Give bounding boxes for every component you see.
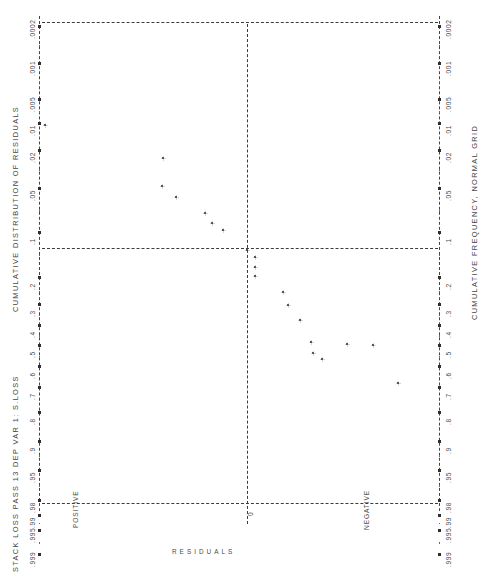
axis-tick-label: .999 (445, 552, 452, 567)
axis-tick-label: .99 (445, 517, 452, 528)
right-axis-spine (439, 16, 440, 511)
axis-tick-label: .99 (29, 517, 36, 528)
axis-tick-label: .95 (445, 472, 452, 483)
axis-tick (38, 303, 41, 306)
axis-tick (38, 386, 41, 389)
axis-tick-label: .98 (445, 502, 452, 513)
axis-tick-minor (439, 45, 441, 47)
lower-frame-line (42, 503, 438, 504)
axis-tick-minor (439, 377, 441, 379)
axis-tick-label: .95 (29, 472, 36, 483)
axis-tick (38, 344, 41, 347)
axis-tick (38, 25, 41, 28)
data-point (312, 352, 315, 355)
axis-tick (38, 149, 41, 152)
axis-tick-minor (39, 81, 41, 83)
median-reference-line (42, 248, 438, 249)
axis-tick-minor (439, 111, 441, 113)
right-axis-title: CUMULATIVE FREQUENCY, NORMAL GRID (470, 125, 479, 320)
axis-tick (38, 411, 41, 414)
axis-tick-minor (39, 456, 41, 458)
axis-tick-minor (39, 169, 41, 171)
axis-tick-minor (439, 169, 441, 171)
axis-tick-minor (39, 508, 41, 510)
axis-tick (438, 276, 441, 279)
axis-tick-minor (39, 315, 41, 317)
data-point (222, 229, 225, 232)
region-label-zero: 0 (247, 511, 254, 516)
data-point (175, 196, 178, 199)
axis-tick-label: .9 (445, 447, 452, 454)
axis-tick-label: .05 (445, 190, 452, 201)
axis-tick-label: .3 (445, 310, 452, 317)
axis-tick-label: .01 (445, 125, 452, 136)
axis-tick-label: .8 (445, 418, 452, 425)
data-point (346, 343, 349, 346)
axis-tick-minor (39, 45, 41, 47)
axis-tick-minor (439, 81, 441, 83)
data-point (310, 341, 313, 344)
axis-tick-minor (39, 291, 41, 293)
axis-tick (38, 440, 41, 443)
axis-tick-minor (39, 356, 41, 358)
axis-tick (438, 231, 441, 234)
bottom-axis-title: RESIDUALS (172, 548, 235, 555)
data-point (204, 212, 207, 215)
axis-tick (438, 499, 441, 502)
axis-tick-minor (439, 335, 441, 337)
axis-tick-label: .4 (445, 331, 452, 338)
data-point (321, 358, 324, 361)
axis-tick (38, 122, 41, 125)
axis-tick-label: .5 (445, 351, 452, 358)
axis-tick-label: .005 (445, 97, 452, 112)
region-label-negative: NEGATIVE (363, 490, 370, 530)
axis-tick (438, 514, 441, 517)
axis-tick (38, 98, 41, 101)
data-point (162, 157, 165, 160)
axis-tick-minor (39, 542, 41, 544)
axis-tick-label: .0002 (29, 19, 36, 39)
left-axis-title: CUMULATIVE DISTRIBUTION OF RESIDUALS (11, 106, 20, 312)
axis-tick-minor (39, 335, 41, 337)
axis-tick (438, 440, 441, 443)
axis-tick (38, 469, 41, 472)
axis-tick-label: .02 (445, 152, 452, 163)
axis-tick-minor (39, 377, 41, 379)
axis-tick-label: .05 (29, 190, 36, 201)
axis-tick-label: .8 (29, 418, 36, 425)
axis-tick-minor (439, 523, 441, 525)
data-point (44, 124, 47, 127)
data-point (299, 319, 302, 322)
axis-tick-minor (439, 485, 441, 487)
axis-tick-minor (439, 210, 441, 212)
axis-tick-label: .2 (445, 283, 452, 290)
plot-title-left: STACK LOSS PASS 13 DEP VAR 1: S.LOSS (11, 375, 20, 572)
axis-tick (438, 98, 441, 101)
zero-residual-line (247, 24, 248, 524)
axis-tick (38, 324, 41, 327)
axis-tick-minor (439, 255, 441, 257)
axis-tick-label: .3 (29, 310, 36, 317)
axis-tick (438, 62, 441, 65)
axis-tick-minor (439, 542, 441, 544)
left-axis-spine (39, 16, 40, 511)
data-point (254, 275, 257, 278)
axis-tick-label: .98 (29, 502, 36, 513)
axis-tick-label: .995 (445, 528, 452, 543)
region-label-positive: POSITIVE (72, 490, 79, 528)
axis-tick-label: .005 (29, 97, 36, 112)
axis-tick-minor (39, 427, 41, 429)
axis-tick (38, 529, 41, 532)
axis-tick-label: .001 (29, 61, 36, 76)
axis-tick-label: .9 (29, 447, 36, 454)
axis-tick-label: .7 (445, 393, 452, 400)
axis-tick-label: .0002 (445, 19, 452, 39)
axis-tick (38, 187, 41, 190)
axis-tick-label: .4 (29, 331, 36, 338)
axis-tick (438, 553, 441, 556)
data-point (254, 266, 257, 269)
axis-tick (38, 365, 41, 368)
axis-tick (38, 62, 41, 65)
axis-tick (438, 386, 441, 389)
axis-tick-minor (39, 400, 41, 402)
